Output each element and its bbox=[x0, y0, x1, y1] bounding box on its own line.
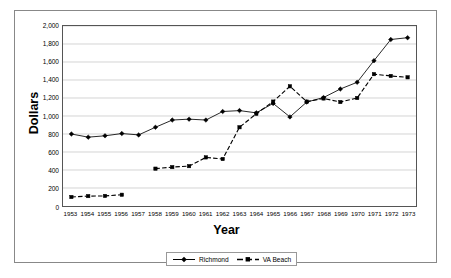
data-point bbox=[255, 112, 258, 115]
plot-area bbox=[62, 25, 417, 207]
data-point bbox=[221, 157, 224, 160]
data-point bbox=[204, 118, 209, 123]
series-layer bbox=[69, 35, 410, 198]
data-point bbox=[154, 167, 157, 170]
y-tick-label: 800 bbox=[25, 131, 59, 138]
y-tick-label: 1,200 bbox=[25, 94, 59, 101]
data-point bbox=[237, 108, 242, 113]
gridlines bbox=[63, 26, 416, 188]
data-point bbox=[69, 132, 74, 137]
legend-label: Richmond bbox=[199, 256, 229, 263]
y-tick-label: 1,000 bbox=[25, 113, 59, 120]
data-point bbox=[70, 195, 73, 198]
y-tick-label: 600 bbox=[25, 149, 59, 156]
data-point bbox=[238, 126, 241, 129]
legend-label: VA Beach bbox=[263, 256, 291, 263]
legend-marker-diamond-icon bbox=[172, 255, 196, 264]
x-tick-label: 1973 bbox=[397, 209, 421, 218]
data-point bbox=[103, 194, 106, 197]
data-point bbox=[136, 133, 141, 138]
legend-entry: VA Beach bbox=[236, 255, 291, 264]
series-va-beach bbox=[70, 72, 410, 198]
chart-plot-svg bbox=[63, 26, 416, 206]
data-point bbox=[120, 193, 123, 196]
y-tick-label: 1,800 bbox=[25, 40, 59, 47]
data-point bbox=[372, 72, 375, 75]
data-point bbox=[187, 117, 192, 122]
data-point bbox=[271, 100, 274, 103]
y-tick-label: 0 bbox=[25, 204, 59, 211]
series-line bbox=[71, 195, 121, 197]
data-point bbox=[171, 165, 174, 168]
legend-marker-square-icon bbox=[236, 255, 260, 264]
data-point bbox=[389, 74, 392, 77]
y-tick-label: 2,000 bbox=[25, 22, 59, 29]
data-point bbox=[87, 194, 90, 197]
x-axis-tick-labels: 1953195419551956195719581959196019611962… bbox=[62, 209, 417, 221]
data-point bbox=[120, 131, 125, 136]
data-point bbox=[355, 96, 358, 99]
chart-frame: Dollars 02004006008001,0001,2001,4001,60… bbox=[14, 10, 437, 263]
series-line bbox=[71, 38, 407, 137]
chart-figure: Dollars 02004006008001,0001,2001,4001,60… bbox=[0, 0, 451, 278]
data-point bbox=[86, 135, 91, 140]
data-point bbox=[170, 118, 175, 123]
x-axis-title: Year bbox=[15, 223, 438, 237]
chart-legend: RichmondVA Beach bbox=[166, 252, 297, 266]
data-point bbox=[187, 164, 190, 167]
legend-entry: Richmond bbox=[172, 255, 229, 264]
data-point bbox=[322, 97, 325, 100]
y-axis-tick-labels: 02004006008001,0001,2001,4001,6001,8002,… bbox=[23, 25, 59, 207]
data-point bbox=[288, 85, 291, 88]
series-line bbox=[155, 74, 407, 169]
data-point bbox=[220, 109, 225, 114]
data-point bbox=[338, 87, 343, 92]
data-point bbox=[405, 35, 410, 40]
y-tick-label: 1,600 bbox=[25, 58, 59, 65]
y-tick-label: 1,400 bbox=[25, 76, 59, 83]
y-tick-label: 400 bbox=[25, 167, 59, 174]
data-point bbox=[153, 125, 158, 130]
y-tick-label: 200 bbox=[25, 185, 59, 192]
data-point bbox=[339, 100, 342, 103]
data-point bbox=[204, 156, 207, 159]
data-point bbox=[406, 76, 409, 79]
series-richmond bbox=[69, 35, 410, 139]
data-point bbox=[305, 100, 308, 103]
